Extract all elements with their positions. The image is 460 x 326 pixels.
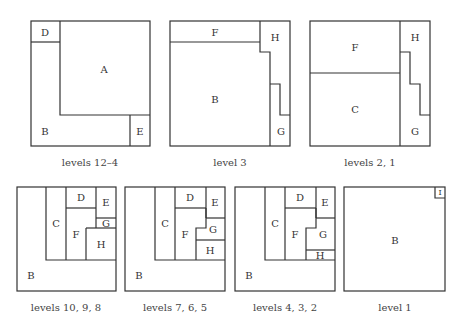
panel-6: CDEGFHBlevels 4, 3, 2 [235, 187, 335, 313]
region-label: B [391, 235, 398, 246]
region-label: D [77, 192, 85, 203]
region-label: F [212, 27, 219, 38]
region-label: B [27, 270, 34, 281]
region-label: D [296, 192, 304, 203]
region-label: C [161, 218, 169, 229]
region-label: B [245, 270, 252, 281]
region-label: E [211, 197, 218, 208]
region-label: A [99, 64, 108, 75]
region-label: H [97, 239, 106, 250]
partition-line [270, 84, 290, 115]
region-label: B [211, 94, 218, 105]
partition-line [400, 52, 430, 115]
region-label: E [102, 197, 109, 208]
region-label: H [271, 32, 280, 43]
partition-line [260, 21, 270, 146]
panel-caption: levels 7, 6, 5 [143, 302, 207, 313]
region-label: F [352, 42, 359, 53]
partition-line [196, 208, 206, 260]
partition-levels-diagram: DABElevels 12–4FHBGlevel 3FHCGlevels 2, … [0, 0, 460, 326]
panel-2: FHBGlevel 3 [170, 21, 290, 168]
region-label: D [41, 27, 49, 38]
region-label: D [186, 192, 194, 203]
region-label: G [102, 218, 110, 229]
region-label: C [351, 104, 359, 115]
panel-caption: level 1 [378, 302, 411, 313]
region-label: H [316, 250, 325, 261]
region-label: B [41, 126, 48, 137]
region-label: G [411, 126, 419, 137]
region-label: E [321, 197, 328, 208]
panel-4: CDEGFHBlevels 10, 9, 8 [17, 187, 116, 313]
panel-7: BIlevel 1 [344, 187, 445, 313]
panel-caption: level 3 [213, 157, 246, 168]
panel-caption: levels 2, 1 [344, 157, 395, 168]
region-label: B [135, 270, 142, 281]
region-label: G [209, 224, 217, 235]
region-label: H [206, 245, 215, 256]
panel-caption: levels 12–4 [62, 157, 118, 168]
region-label: H [411, 32, 420, 43]
panel-outer-box [31, 21, 150, 146]
panel-1: DABElevels 12–4 [31, 21, 150, 168]
region-label: C [271, 218, 279, 229]
region-label: E [136, 126, 143, 137]
region-label: G [319, 229, 327, 240]
region-label: F [182, 229, 189, 240]
region-label: I [438, 188, 441, 197]
panel-caption: levels 10, 9, 8 [31, 302, 101, 313]
region-label: F [73, 229, 80, 240]
region-label: G [277, 126, 285, 137]
region-label: C [52, 218, 60, 229]
partition-line [306, 208, 316, 260]
panel-caption: levels 4, 3, 2 [253, 302, 317, 313]
region-label: F [292, 229, 299, 240]
panel-5: CDEGFHBlevels 7, 6, 5 [125, 187, 225, 313]
panel-3: FHCGlevels 2, 1 [310, 21, 430, 168]
